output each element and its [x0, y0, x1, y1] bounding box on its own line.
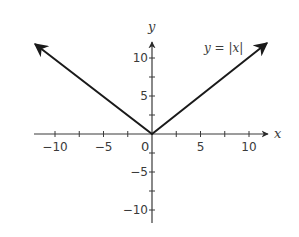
x-axis-label: x	[274, 126, 282, 141]
y-axis-label: y	[147, 19, 156, 34]
y-tick-label: 10	[133, 51, 148, 65]
y-tick-label: 5	[140, 89, 148, 103]
x-tick-label: 5	[197, 140, 205, 154]
x-tick-label: −10	[42, 140, 67, 154]
x-tick-label: −5	[95, 140, 113, 154]
y-axis: 105−5−10 y	[123, 19, 156, 223]
origin-label: 0	[141, 139, 149, 154]
function-label: y = |x|	[203, 41, 243, 55]
y-tick-label: −5	[130, 165, 148, 179]
abs-value-line	[35, 43, 267, 134]
x-tick-label: 10	[241, 140, 256, 154]
y-tick-label: −10	[123, 203, 148, 217]
abs-value-graph: −10−5510 x 105−5−10 y 0 y = |x|	[0, 0, 299, 237]
